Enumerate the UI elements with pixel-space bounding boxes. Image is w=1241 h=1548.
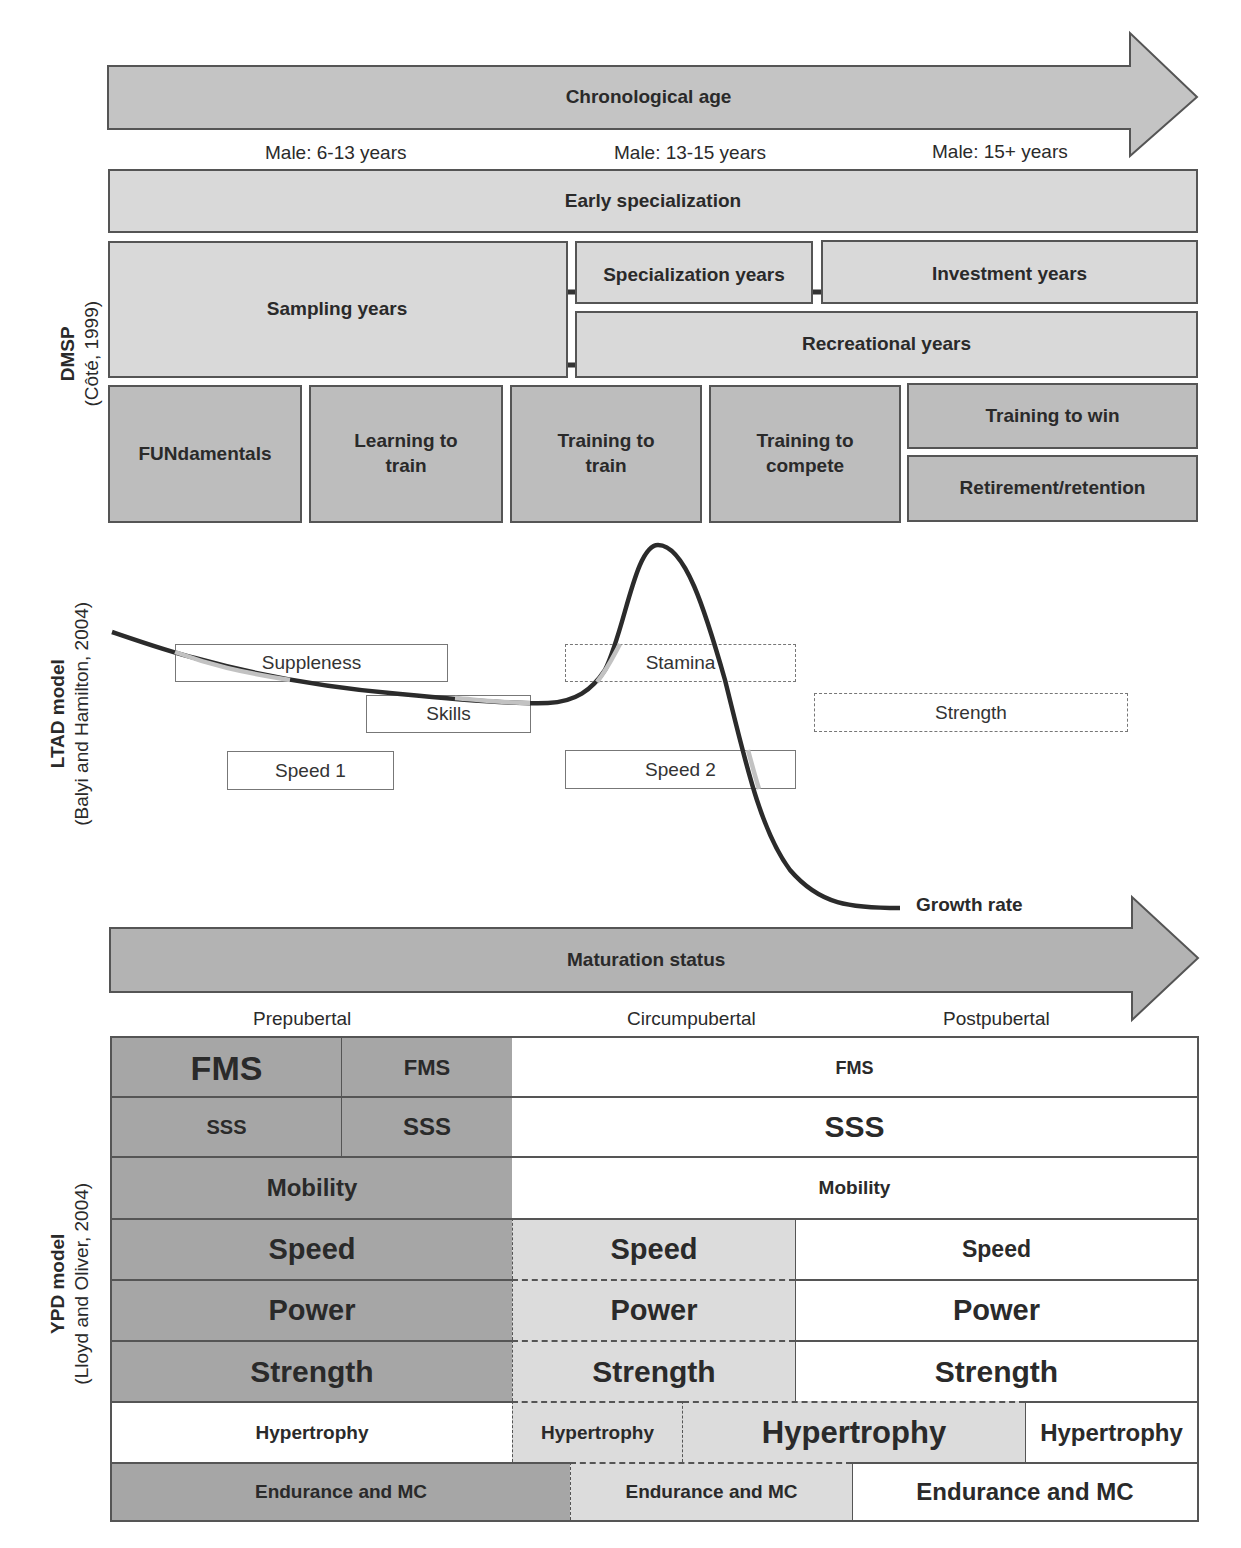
- age-label-6-13: Male: 6-13 years: [265, 142, 407, 164]
- ypd-citation: (Lloyd and Oliver, 2004): [71, 1183, 92, 1385]
- specialization-years-label: Specialization years: [603, 263, 785, 288]
- ypd-speed-circumpubertal: Speed: [512, 1218, 795, 1279]
- recreational-years-box: Recreational years: [575, 311, 1198, 378]
- ypd-hypertrophy-circumpubertal-late: Hypertrophy: [683, 1401, 1025, 1462]
- investment-years-box: Investment years: [821, 240, 1198, 304]
- window-label: Speed 2: [645, 759, 716, 781]
- ltad-stage-training-to-train: Training to train: [510, 385, 702, 523]
- maturation-label-circumpubertal: Circumpubertal: [627, 1008, 756, 1030]
- chronological-age-title: Chronological age: [0, 86, 1241, 108]
- ypd-hypertrophy-prepubertal: Hypertrophy: [112, 1401, 512, 1462]
- ypd-speed-prepubertal: Speed: [112, 1218, 512, 1279]
- dmsp-title: DMSP: [56, 254, 80, 454]
- stage-label: Training to compete: [751, 429, 859, 478]
- ltad-title: LTAD model: [46, 564, 70, 864]
- ypd-fms-post: FMS: [512, 1038, 1197, 1098]
- ltad-citation: (Balyi and Hamilton, 2004): [71, 602, 92, 826]
- ypd-power-prepubertal: Power: [112, 1279, 512, 1340]
- ypd-strength-prepubertal: Strength: [112, 1340, 512, 1401]
- ypd-power-postpubertal: Power: [795, 1279, 1197, 1340]
- ypd-title: YPD model: [46, 1144, 70, 1424]
- ypd-fms-prepubertal-late: FMS: [342, 1038, 512, 1098]
- recreational-years-label: Recreational years: [802, 332, 971, 357]
- dmsp-citation: (Côté, 1999): [81, 301, 102, 407]
- ypd-speed-postpubertal: Speed: [795, 1218, 1197, 1279]
- stage-label: FUNdamentals: [138, 442, 271, 467]
- window-strength: Strength: [814, 693, 1128, 732]
- window-skills: Skills: [366, 695, 531, 733]
- ltad-stage-learning-to-train: Learning to train: [309, 385, 503, 523]
- ypd-hypertrophy-circumpubertal-early: Hypertrophy: [512, 1401, 683, 1462]
- growth-rate-label: Growth rate: [916, 894, 1023, 916]
- ypd-mobility-prepubertal: Mobility: [112, 1156, 512, 1218]
- ypd-mobility-post: Mobility: [512, 1156, 1197, 1218]
- ypd-fms-prepubertal-early: FMS: [112, 1038, 342, 1098]
- investment-years-label: Investment years: [932, 262, 1087, 287]
- ypd-strength-circumpubertal: Strength: [512, 1340, 795, 1401]
- window-label: Stamina: [646, 652, 716, 674]
- window-speed-1: Speed 1: [227, 751, 394, 790]
- early-specialization-box: Early specialization: [108, 169, 1198, 233]
- ltad-stage-retirement-retention: Retirement/retention: [907, 455, 1198, 522]
- early-specialization-label: Early specialization: [565, 189, 741, 214]
- ltad-stage-training-to-win: Training to win: [907, 383, 1198, 449]
- ypd-endurance-prepubertal: Endurance and MC: [112, 1462, 570, 1520]
- stage-label: Training to train: [552, 429, 660, 478]
- stage-label: Training to win: [985, 404, 1119, 429]
- ypd-sss-post: SSS: [512, 1096, 1197, 1156]
- maturation-status-title: Maturation status: [567, 949, 725, 971]
- window-label: Strength: [935, 702, 1007, 724]
- window-stamina: Stamina: [565, 644, 796, 682]
- stage-label: Learning to train: [351, 429, 461, 478]
- window-speed-2: Speed 2: [565, 750, 796, 789]
- window-label: Skills: [426, 703, 470, 725]
- ypd-hypertrophy-postpubertal: Hypertrophy: [1025, 1401, 1197, 1462]
- ltad-side-label: LTAD model (Balyi and Hamilton, 2004): [46, 564, 94, 864]
- window-suppleness: Suppleness: [175, 644, 448, 682]
- ypd-sss-prepubertal-late: SSS: [342, 1096, 512, 1156]
- sampling-years-box: Sampling years: [108, 241, 568, 378]
- age-label-13-15: Male: 13-15 years: [614, 142, 766, 164]
- window-label: Suppleness: [262, 652, 361, 674]
- dmsp-side-label: DMSP (Côté, 1999): [56, 254, 104, 454]
- stage-label: Retirement/retention: [960, 476, 1146, 501]
- ypd-side-label: YPD model (Lloyd and Oliver, 2004): [46, 1144, 94, 1424]
- sampling-years-label: Sampling years: [108, 297, 566, 322]
- ltad-stage-training-to-compete: Training to compete: [709, 385, 901, 523]
- ypd-sss-prepubertal-early: SSS: [112, 1096, 342, 1156]
- ypd-power-circumpubertal: Power: [512, 1279, 795, 1340]
- maturation-label-prepubertal: Prepubertal: [253, 1008, 351, 1030]
- ypd-endurance-circumpubertal: Endurance and MC: [570, 1462, 852, 1520]
- maturation-label-postpubertal: Postpubertal: [943, 1008, 1050, 1030]
- window-label: Speed 1: [275, 760, 346, 782]
- specialization-years-box: Specialization years: [575, 241, 813, 304]
- age-label-15-plus: Male: 15+ years: [932, 141, 1068, 163]
- ypd-grid: FMS FMS FMS SSS SSS SSS Mobility Mobilit…: [110, 1036, 1199, 1522]
- ypd-endurance-postpubertal: Endurance and MC: [852, 1462, 1197, 1520]
- ltad-stage-fundamentals: FUNdamentals: [108, 385, 302, 523]
- ypd-strength-postpubertal: Strength: [795, 1340, 1197, 1401]
